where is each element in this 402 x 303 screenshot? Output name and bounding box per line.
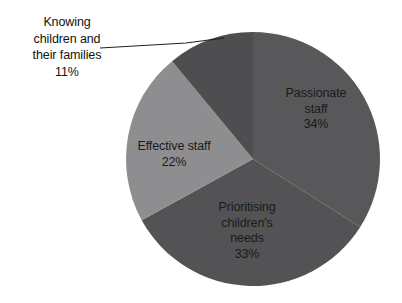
pie-label-knowing-children-and-their-families: Knowing children and their families 11% <box>6 14 128 80</box>
pie-chart-figure: Knowing children and their families 11% … <box>0 0 402 303</box>
label-line-1: Knowing <box>6 14 128 31</box>
label-line-3: their families <box>6 47 128 64</box>
label-line-2: children and <box>6 31 128 48</box>
label-value: 11% <box>6 64 128 81</box>
